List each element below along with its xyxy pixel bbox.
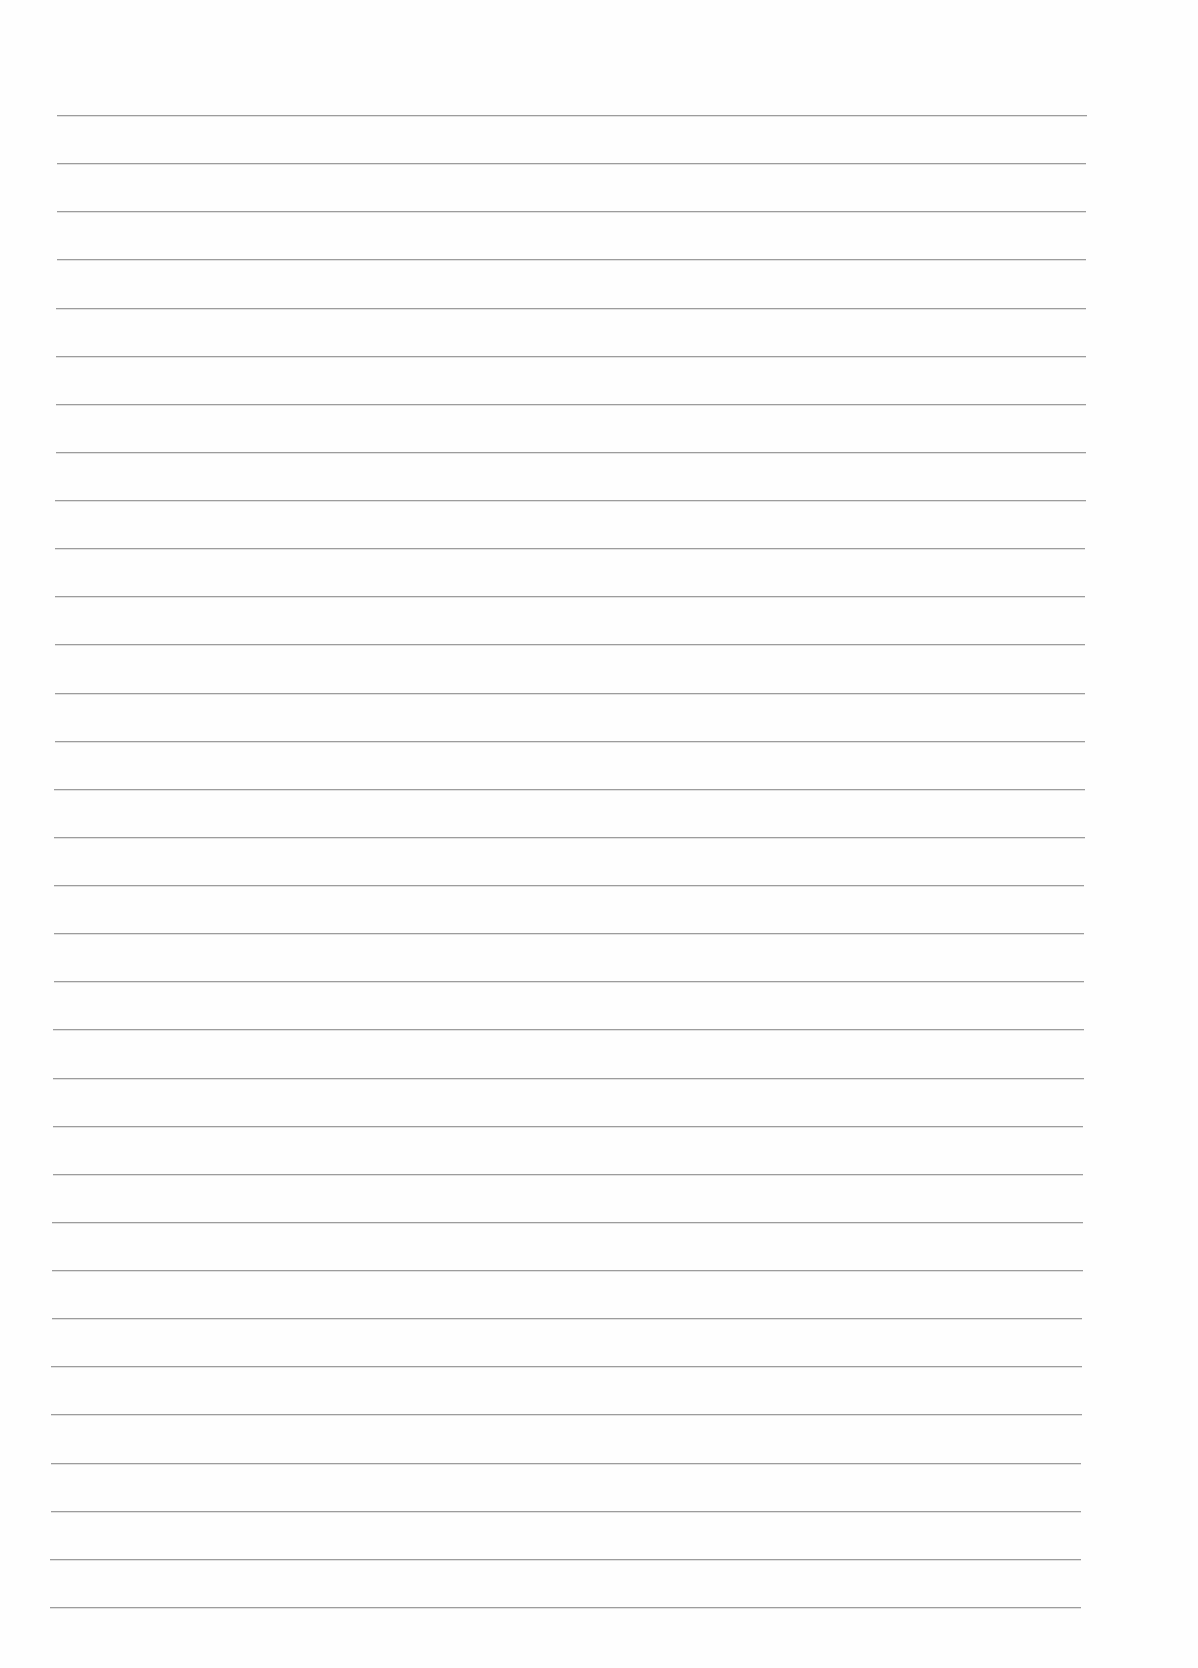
ruled-line bbox=[54, 933, 1084, 934]
ruled-line bbox=[54, 789, 1085, 790]
ruled-line bbox=[56, 452, 1086, 453]
ruled-line bbox=[54, 885, 1084, 886]
ruled-line bbox=[51, 1366, 1082, 1367]
ruled-line bbox=[56, 404, 1086, 405]
ruled-line bbox=[55, 693, 1085, 694]
ruled-line bbox=[53, 1174, 1083, 1175]
ruled-line bbox=[57, 259, 1086, 260]
ruled-line bbox=[55, 500, 1086, 501]
ruled-line bbox=[53, 1029, 1084, 1030]
ruled-line bbox=[50, 1607, 1081, 1608]
ruled-line bbox=[52, 1270, 1083, 1271]
ruled-line bbox=[55, 741, 1085, 742]
ruled-line bbox=[55, 644, 1085, 645]
ruled-line bbox=[51, 1463, 1081, 1464]
ruled-line bbox=[52, 1318, 1082, 1319]
ruled-line bbox=[55, 596, 1085, 597]
ruled-line bbox=[56, 308, 1086, 309]
ruled-line bbox=[55, 548, 1085, 549]
lined-paper-page bbox=[0, 0, 1198, 1668]
ruled-line bbox=[54, 837, 1085, 838]
ruled-line bbox=[53, 1126, 1083, 1127]
ruled-line bbox=[50, 1559, 1081, 1560]
ruled-line bbox=[51, 1414, 1082, 1415]
ruled-line bbox=[57, 211, 1086, 212]
ruled-line bbox=[57, 163, 1086, 164]
ruled-line bbox=[52, 1222, 1083, 1223]
ruled-line bbox=[51, 1511, 1081, 1512]
ruled-line bbox=[54, 981, 1084, 982]
ruled-line bbox=[53, 1078, 1084, 1079]
ruled-line bbox=[57, 115, 1087, 116]
ruled-line bbox=[56, 356, 1086, 357]
